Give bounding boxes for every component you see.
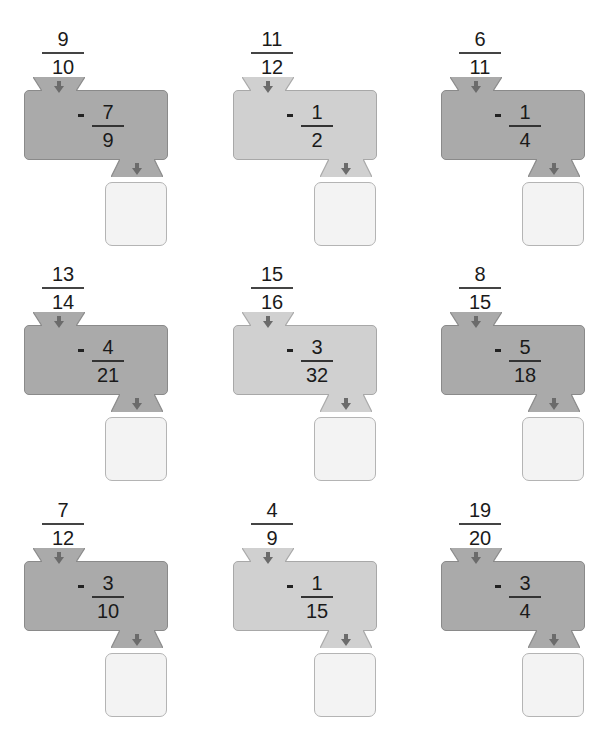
answer-box[interactable]: [105, 653, 167, 717]
function-machine: 11 12 1 2: [233, 28, 403, 263]
down-arrow-icon: [132, 161, 142, 173]
down-arrow-icon: [549, 161, 559, 173]
function-machine: 9 10 7 9: [24, 28, 194, 263]
down-arrow-icon: [54, 79, 64, 91]
operand-denominator: 32: [301, 362, 333, 388]
input-numerator: 6: [457, 28, 503, 52]
operand-numerator: 4: [92, 336, 124, 360]
answer-box[interactable]: [522, 653, 584, 717]
operand-fraction: 4 21: [92, 336, 124, 388]
input-fraction: 11 12: [249, 28, 295, 80]
answer-box[interactable]: [314, 182, 376, 246]
answer-box[interactable]: [522, 417, 584, 481]
input-denominator: 10: [40, 54, 86, 80]
operand-fraction: 5 18: [509, 336, 541, 388]
answer-box[interactable]: [522, 182, 584, 246]
input-numerator: 8: [457, 263, 503, 287]
down-arrow-icon: [471, 550, 481, 562]
minus-sign: [287, 349, 293, 352]
minus-sign: [287, 114, 293, 117]
operand-fraction: 3 32: [301, 336, 333, 388]
input-fraction: 13 14: [40, 263, 86, 315]
down-arrow-icon: [132, 632, 142, 644]
down-arrow-icon: [263, 314, 273, 326]
operand-denominator: 9: [92, 127, 124, 153]
input-numerator: 13: [40, 263, 86, 287]
minus-sign: [78, 585, 84, 588]
operand-fraction: 7 9: [92, 101, 124, 153]
input-denominator: 16: [249, 289, 295, 315]
operand-fraction: 1 15: [301, 572, 333, 624]
operand-numerator: 1: [301, 572, 333, 596]
operand-fraction: 3 4: [509, 572, 541, 624]
input-fraction: 19 20: [457, 499, 503, 551]
input-numerator: 11: [249, 28, 295, 52]
operand-numerator: 1: [301, 101, 333, 125]
function-machine: 8 15 5 18: [441, 263, 605, 498]
input-fraction: 8 15: [457, 263, 503, 315]
answer-box[interactable]: [105, 417, 167, 481]
operand-numerator: 1: [509, 101, 541, 125]
operand-denominator: 2: [301, 127, 333, 153]
input-fraction: 7 12: [40, 499, 86, 551]
operand-denominator: 4: [509, 598, 541, 624]
down-arrow-icon: [263, 550, 273, 562]
input-numerator: 19: [457, 499, 503, 523]
input-denominator: 12: [40, 525, 86, 551]
minus-sign: [287, 585, 293, 588]
function-machine: 15 16 3 32: [233, 263, 403, 498]
operand-denominator: 21: [92, 362, 124, 388]
down-arrow-icon: [549, 632, 559, 644]
operand-numerator: 5: [509, 336, 541, 360]
minus-sign: [495, 349, 501, 352]
minus-sign: [78, 114, 84, 117]
input-denominator: 12: [249, 54, 295, 80]
input-numerator: 4: [249, 499, 295, 523]
down-arrow-icon: [54, 314, 64, 326]
minus-sign: [78, 349, 84, 352]
function-machine: 19 20 3 4: [441, 499, 605, 734]
answer-box[interactable]: [314, 653, 376, 717]
function-machine: 13 14 4 21: [24, 263, 194, 498]
operand-denominator: 15: [301, 598, 333, 624]
down-arrow-icon: [341, 396, 351, 408]
input-numerator: 7: [40, 499, 86, 523]
operand-numerator: 7: [92, 101, 124, 125]
down-arrow-icon: [341, 632, 351, 644]
operand-denominator: 4: [509, 127, 541, 153]
input-fraction: 9 10: [40, 28, 86, 80]
operand-numerator: 3: [301, 336, 333, 360]
input-denominator: 20: [457, 525, 503, 551]
function-machine: 6 11 1 4: [441, 28, 605, 263]
input-fraction: 15 16: [249, 263, 295, 315]
operand-fraction: 1 2: [301, 101, 333, 153]
operand-numerator: 3: [92, 572, 124, 596]
down-arrow-icon: [471, 79, 481, 91]
down-arrow-icon: [341, 161, 351, 173]
input-denominator: 11: [457, 54, 503, 80]
minus-sign: [495, 585, 501, 588]
operand-fraction: 3 10: [92, 572, 124, 624]
input-fraction: 6 11: [457, 28, 503, 80]
input-denominator: 9: [249, 525, 295, 551]
input-denominator: 14: [40, 289, 86, 315]
operand-denominator: 18: [509, 362, 541, 388]
answer-box[interactable]: [105, 182, 167, 246]
function-machine: 7 12 3 10: [24, 499, 194, 734]
minus-sign: [495, 114, 501, 117]
down-arrow-icon: [132, 396, 142, 408]
down-arrow-icon: [471, 314, 481, 326]
function-machine: 4 9 1 15: [233, 499, 403, 734]
down-arrow-icon: [549, 396, 559, 408]
input-numerator: 9: [40, 28, 86, 52]
input-fraction: 4 9: [249, 499, 295, 551]
operand-numerator: 3: [509, 572, 541, 596]
answer-box[interactable]: [314, 417, 376, 481]
down-arrow-icon: [263, 79, 273, 91]
operand-fraction: 1 4: [509, 101, 541, 153]
down-arrow-icon: [54, 550, 64, 562]
input-numerator: 15: [249, 263, 295, 287]
input-denominator: 15: [457, 289, 503, 315]
operand-denominator: 10: [92, 598, 124, 624]
